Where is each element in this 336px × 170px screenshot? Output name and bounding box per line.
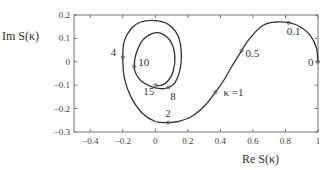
y-tick-label: 0 — [66, 57, 71, 67]
point-label: 0 — [308, 56, 314, 68]
point-label: 0.1 — [287, 25, 301, 37]
point-label: 2 — [165, 107, 171, 119]
y-tick-label: −0.3 — [54, 127, 71, 137]
x-axis-title: Re S(κ) — [242, 152, 279, 166]
x-tick-label: 0 — [153, 136, 158, 146]
chart-svg: −0.4−0.200.20.40.60.81 0.20.10−0.1−0.2−0… — [0, 0, 336, 170]
point-label: 0.5 — [246, 47, 260, 59]
point-label: 8 — [170, 90, 176, 102]
x-tick-label: 0.4 — [215, 136, 227, 146]
y-axis-ticks: 0.20.10−0.1−0.2−0.3 — [54, 10, 318, 137]
x-tick-label: 1 — [316, 136, 321, 146]
y-tick-label: 0.1 — [59, 33, 70, 43]
y-tick-label: −0.1 — [54, 80, 70, 90]
y-tick-label: −0.2 — [54, 104, 70, 114]
x-tick-label: 0.6 — [247, 136, 259, 146]
x-tick-label: −0.4 — [82, 136, 99, 146]
x-axis-ticks: −0.4−0.200.20.40.60.81 — [82, 15, 320, 146]
plot-frame — [74, 15, 318, 132]
point-label: 10 — [138, 56, 150, 68]
point-label: κ =1 — [224, 86, 244, 98]
y-axis-title: Im S(κ) — [2, 29, 39, 43]
x-tick-label: 0.8 — [280, 136, 292, 146]
point-label: 15 — [143, 85, 155, 97]
point-markers: 00.10.5κ =12481015 — [111, 21, 320, 124]
x-tick-label: 0.2 — [182, 136, 193, 146]
y-tick-label: 0.2 — [59, 10, 70, 20]
x-tick-label: −0.2 — [115, 136, 131, 146]
point-label: 4 — [111, 46, 117, 58]
